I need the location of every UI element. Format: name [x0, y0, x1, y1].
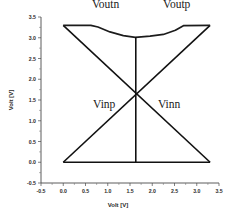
annotation-vinp: Vinp [93, 98, 116, 111]
y-tick-label: 1.0 [29, 118, 36, 124]
x-tick-label: 2.0 [149, 188, 156, 194]
y-axis-title: Volt [V] [8, 90, 14, 111]
annotation-voutn: Voutn [92, 0, 120, 10]
x-axis-title: Volt [V] [108, 202, 129, 208]
x-tick-label: -0.5 [37, 188, 46, 194]
x-tick-label: 0.0 [60, 188, 67, 194]
x-tick-label: 0.5 [82, 188, 89, 194]
y-tick-label: 3.0 [29, 35, 36, 41]
chart-figure: -0.50.00.51.01.52.02.53.03.5 -0.50.00.51… [0, 0, 236, 222]
y-tick-label: 2.0 [29, 76, 36, 82]
y-tick-label: 3.5 [29, 14, 36, 20]
y-tick-label: 2.5 [29, 56, 36, 62]
volt-vs-volt-plot: -0.50.00.51.01.52.02.53.03.5 -0.50.00.51… [0, 0, 236, 222]
x-tick-label: 3.5 [215, 188, 222, 194]
x-tick-label: 1.5 [126, 188, 133, 194]
x-tick-label: 3.0 [193, 188, 200, 194]
y-tick-label: 0.5 [29, 139, 36, 145]
y-tick-label: 0.0 [29, 159, 36, 165]
x-tick-label: 1.0 [104, 188, 111, 194]
annotation-voutp: Voutp [163, 0, 191, 11]
x-tick-label: 2.5 [171, 188, 178, 194]
annotation-vinn: Vinn [158, 98, 181, 110]
y-tick-label: -0.5 [27, 180, 36, 186]
y-tick-label: 1.5 [29, 97, 36, 103]
